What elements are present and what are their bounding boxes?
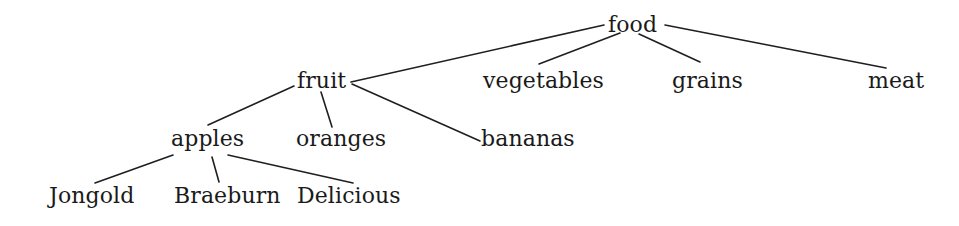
tree-edge-food-to-grains — [639, 34, 700, 62]
tree-node-Braeburn: Braeburn — [174, 185, 281, 207]
tree-diagram: foodfruitvegetablesgrainsmeatapplesorang… — [0, 0, 959, 226]
tree-edge-fruit-to-oranges — [321, 92, 332, 127]
tree-node-grains: grains — [672, 70, 743, 92]
tree-edge-food-to-meat — [665, 25, 886, 68]
tree-node-apples: apples — [171, 128, 244, 150]
tree-node-meat: meat — [868, 70, 924, 92]
tree-node-oranges: oranges — [296, 128, 386, 150]
tree-edge-apples-to-Braeburn — [212, 157, 219, 182]
tree-node-Delicious: Delicious — [297, 185, 401, 207]
tree-node-food: food — [608, 14, 657, 36]
tree-edge-apples-to-Jongold — [95, 155, 173, 183]
tree-node-bananas: bananas — [481, 128, 575, 150]
tree-node-fruit: fruit — [297, 70, 346, 92]
tree-node-vegetables: vegetables — [483, 70, 604, 92]
tree-edge-fruit-to-apples — [208, 86, 294, 125]
tree-edge-apples-to-Delicious — [228, 155, 353, 183]
tree-edge-food-to-vegetables — [539, 33, 620, 64]
edge-layer — [0, 0, 959, 226]
tree-node-Jongold: Jongold — [49, 185, 134, 207]
